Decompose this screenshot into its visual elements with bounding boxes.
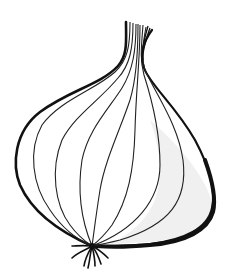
root-tuft bbox=[72, 246, 108, 268]
onion-drawing bbox=[0, 0, 227, 280]
bulb-shade bbox=[110, 120, 212, 244]
layer-line-3 bbox=[80, 24, 136, 246]
onion-illustration: Line drawing of an onion bulb with a nar… bbox=[0, 0, 227, 280]
layer-line-4 bbox=[92, 24, 138, 246]
root-base bbox=[89, 243, 95, 249]
layer-line-2 bbox=[55, 23, 133, 246]
bulb-outline-left bbox=[16, 22, 126, 246]
